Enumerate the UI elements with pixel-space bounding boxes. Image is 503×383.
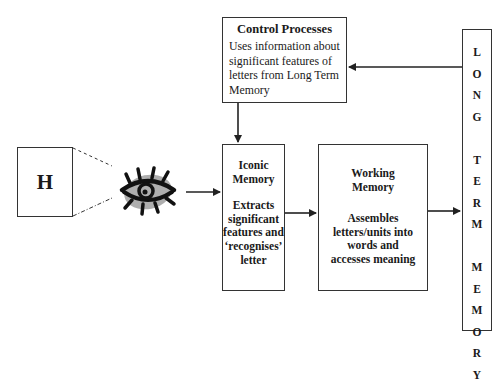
sight-line-top — [73, 148, 112, 166]
description-line: significant features of — [229, 54, 340, 69]
ltm-letter: O — [473, 322, 482, 344]
description-line: letters/units into — [319, 226, 427, 240]
description-line: Extracts — [223, 199, 284, 213]
eye-icon — [116, 166, 180, 218]
description-line: letters from Long Term — [229, 68, 340, 83]
stimulus-letter: H — [37, 170, 53, 195]
description-line: Uses information about — [229, 39, 340, 54]
long-term-memory-label: L O N G T E R M M E M O R Y — [463, 42, 491, 383]
ltm-letter: R — [473, 193, 481, 215]
control-processes-box: Control Processes Uses information about… — [222, 17, 347, 103]
description-line: words and — [319, 239, 427, 253]
ltm-letter: L — [473, 42, 481, 64]
ltm-letter: G — [473, 107, 482, 129]
ltm-letter: O — [473, 64, 482, 86]
working-memory-description: Assembles letters/units into words and a… — [319, 212, 427, 266]
description-line: letter — [223, 254, 284, 268]
ltm-letter: M — [472, 214, 483, 236]
description-line: ‘recognises’ — [223, 240, 284, 254]
title-line: Working — [319, 167, 427, 181]
ltm-letter: M — [472, 257, 483, 279]
iconic-memory-box: Iconic Memory Extracts significant featu… — [222, 144, 285, 291]
description-line: significant — [223, 213, 284, 227]
control-processes-title: Control Processes — [229, 22, 340, 37]
sight-line-bottom — [73, 198, 112, 216]
description-line: Assembles — [319, 212, 427, 226]
description-line: features and — [223, 226, 284, 240]
control-processes-description: Uses information about significant featu… — [229, 39, 340, 97]
description-line: Memory — [229, 83, 340, 98]
ltm-letter: M — [472, 300, 483, 322]
ltm-letter: E — [473, 171, 481, 193]
ltm-letter: Y — [473, 365, 481, 383]
iconic-memory-description: Extracts significant features and ‘recog… — [223, 199, 284, 267]
description-line: accesses meaning — [319, 253, 427, 267]
ltm-letter: E — [473, 279, 481, 301]
title-line: Iconic — [223, 159, 284, 173]
title-line: Memory — [223, 173, 284, 187]
ltm-letter: R — [473, 343, 481, 365]
ltm-letter: N — [473, 85, 481, 107]
long-term-memory-box: L O N G T E R M M E M O R Y — [462, 29, 492, 331]
iconic-memory-title: Iconic Memory — [223, 159, 284, 186]
title-line: Memory — [319, 181, 427, 195]
working-memory-box: Working Memory Assembles letters/units i… — [318, 144, 428, 291]
ltm-letter: T — [473, 150, 481, 172]
working-memory-title: Working Memory — [319, 167, 427, 194]
stimulus-letter-box: H — [17, 147, 73, 217]
